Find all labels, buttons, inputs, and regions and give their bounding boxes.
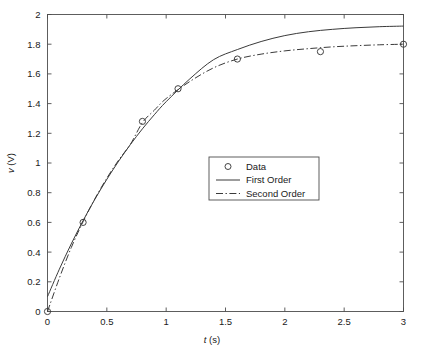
x-tick-label: 1 <box>164 316 169 327</box>
x-tick-label: 3 <box>401 316 406 327</box>
x-tick-label: 2.5 <box>338 316 351 327</box>
y-tick-label: 1.8 <box>27 39 40 50</box>
x-tick-label: 0 <box>45 316 50 327</box>
y-tick-label: 0.8 <box>27 187 40 198</box>
chart-legend: DataFirst OrderSecond Order <box>209 157 319 200</box>
y-tick-label: 1.6 <box>27 68 40 79</box>
y-tick-label: 2 <box>35 9 40 20</box>
x-tick-label: 2 <box>282 316 287 327</box>
legend-label: Second Order <box>246 188 305 199</box>
x-tick-label: 1.5 <box>219 316 232 327</box>
y-tick-label: 1.2 <box>27 128 40 139</box>
y-tick-label: 1.4 <box>27 98 40 109</box>
y-tick-label: 1 <box>35 157 40 168</box>
chart-plot-area: 00.511.522.53 00.20.40.60.811.21.41.61.8… <box>0 0 425 354</box>
y-tick-label: 0.6 <box>27 217 40 228</box>
chart-figure: 00.511.522.53 00.20.40.60.811.21.41.61.8… <box>0 0 425 354</box>
y-tick-label: 0.4 <box>27 247 40 258</box>
y-tick-label: 0.2 <box>27 276 40 287</box>
x-tick-label: 0.5 <box>100 316 113 327</box>
x-axis-title: t (s) <box>204 334 220 345</box>
y-tick-label: 0 <box>35 306 40 317</box>
y-axis-title: v (V) <box>5 153 16 173</box>
legend-label: Data <box>246 161 267 172</box>
legend-label: First Order <box>246 174 291 185</box>
